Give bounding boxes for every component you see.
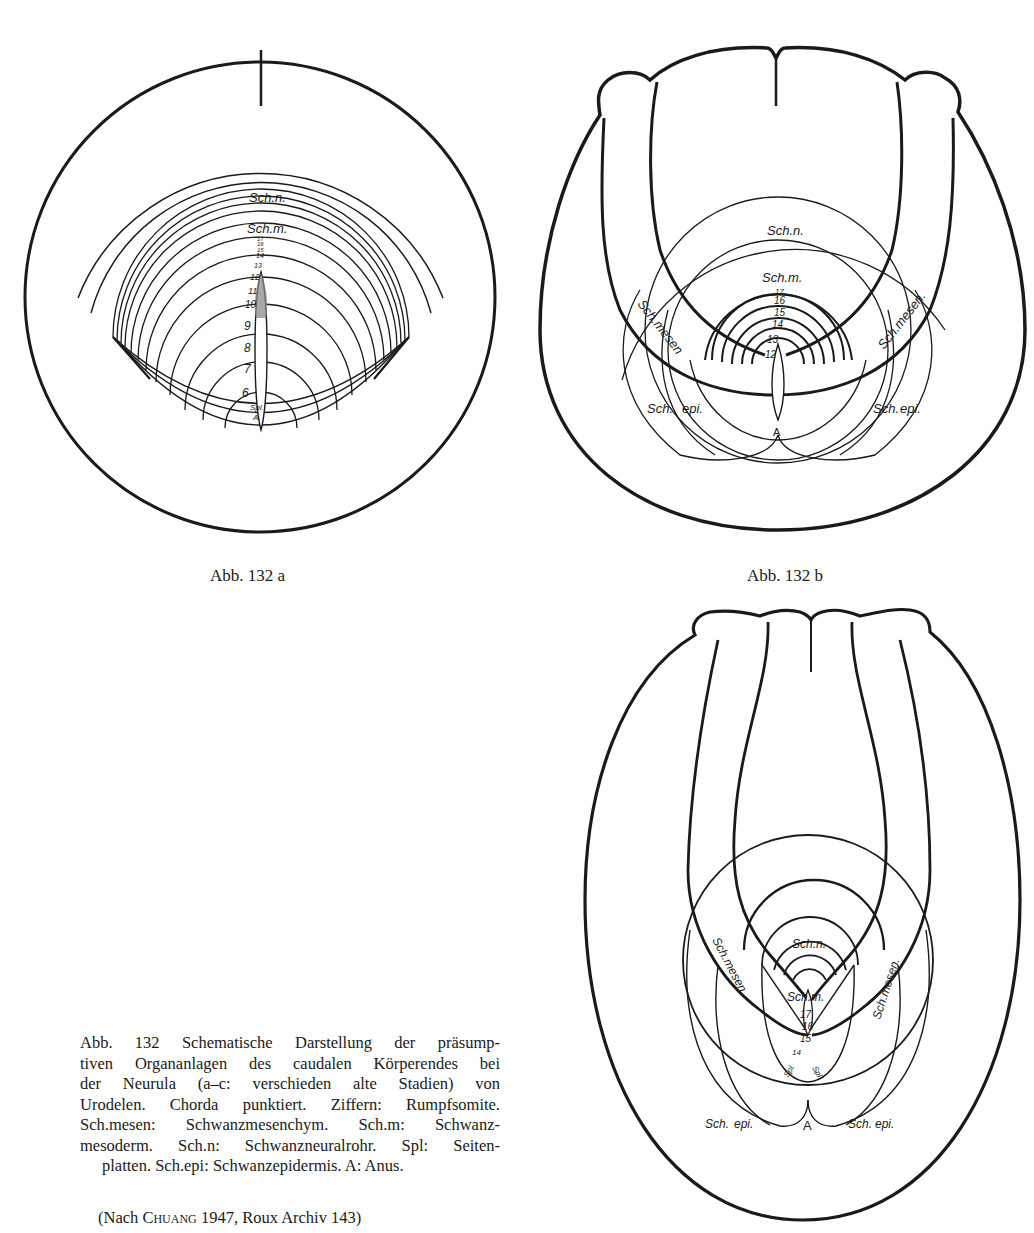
label-epi-left-c: epi. <box>734 1117 753 1131</box>
neural-fold-left-outer-c <box>688 640 808 1035</box>
label-anus-c: A <box>803 1118 812 1133</box>
caption-line: der Neurula (a–c: verschieden alte Stadi… <box>80 1074 500 1095</box>
label-spl-left-c: Spl. <box>782 1063 797 1079</box>
source-suffix: 1947, Roux Archiv 143) <box>197 1208 362 1227</box>
caption-line: mesoderm. Sch.n: Schwanzneuralrohr. Spl:… <box>80 1136 500 1157</box>
label-epi-right-c: epi. <box>875 1117 894 1131</box>
label-sch-right-c: Sch. <box>848 1117 872 1131</box>
label-sch-left-c: Sch. <box>705 1117 729 1131</box>
label-spl-right-c: Spl. <box>810 1065 825 1081</box>
label-sch-mesen-right-c: Sch.mesen. <box>870 956 903 1021</box>
caption-line: platten. Sch.epi: Schwanzepidermis. A: A… <box>80 1156 500 1177</box>
sch-epi-right-outer-c <box>808 930 929 1126</box>
sch-epi-left-outer-c <box>687 930 808 1126</box>
caption-line: Urodelen. Chorda punktiert. Ziffern: Rum… <box>80 1095 500 1116</box>
figure-caption: Abb. 132 Schematische Darstellung der pr… <box>80 1033 500 1177</box>
caption-source: (Nach Chuang 1947, Roux Archiv 143) <box>98 1208 361 1228</box>
caption-line: Abb. 132 Schematische Darstellung der pr… <box>80 1033 500 1054</box>
somite-16-c: 16 <box>802 1021 814 1032</box>
somite-15-c: 15 <box>800 1033 812 1044</box>
caption-line: Sch.mesen: Schwanzmesenchym. Sch.m: Schw… <box>80 1115 500 1136</box>
source-prefix: (Nach <box>98 1208 142 1227</box>
somite-17-c: 17 <box>800 1009 812 1020</box>
label-sch-m-c: Sch.m. <box>787 990 824 1004</box>
label-sch-n-c: Sch.n. <box>792 937 826 951</box>
source-author: Chuang <box>142 1208 196 1227</box>
caption-line: tiven Organanlagen des caudalen Körperen… <box>80 1054 500 1075</box>
somite-14-c: 14 <box>792 1048 801 1057</box>
